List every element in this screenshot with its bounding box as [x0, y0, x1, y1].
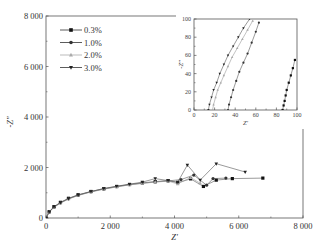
- inset-x-tick-label: 20: [212, 112, 218, 118]
- main-y-tick-label: 6 000: [24, 62, 43, 72]
- inset-x-axis-title: Z': [243, 119, 249, 126]
- inset-data-point: [294, 59, 296, 61]
- inset-data-point: [286, 89, 288, 91]
- inset-y-tick-label: 80: [185, 34, 191, 40]
- inset-data-point: [284, 100, 286, 102]
- inset-data-point: [283, 104, 285, 106]
- inset-y-tick-label: 60: [185, 52, 191, 58]
- main-data-point: [205, 184, 208, 187]
- main-y-tick-label: 4 000: [24, 112, 43, 122]
- legend-label: 1.0%: [84, 38, 102, 48]
- inset-data-point: [285, 94, 287, 96]
- legend-label: 3.0%: [84, 63, 102, 73]
- inset-x-tick-label: 80: [273, 112, 279, 118]
- inset-data-point: [235, 80, 237, 82]
- main-x-tick-label: 0: [44, 221, 48, 231]
- inset-data-point: [255, 31, 257, 33]
- legend-square-icon: [69, 28, 73, 32]
- inset-data-point: [292, 67, 294, 69]
- main-y-axis-title: -Z'': [5, 116, 15, 127]
- inset-data-point: [288, 82, 290, 84]
- main-data-point: [198, 179, 202, 182]
- main-y-tick-label: 0: [39, 213, 43, 223]
- inset-x-tick-label: 40: [232, 112, 238, 118]
- legend-label: 2.0%: [84, 50, 102, 60]
- inset-y-tick-label: 40: [185, 71, 191, 77]
- inset-y-axis-title: -Z'': [177, 60, 184, 69]
- inset-data-point: [242, 62, 244, 64]
- inset-y-tick-label: 100: [182, 16, 191, 22]
- main-data-point: [224, 177, 227, 180]
- main-data-point: [202, 185, 205, 188]
- main-x-tick-label: 8 000: [293, 221, 312, 231]
- main-y-tick-label: 2 000: [24, 163, 43, 173]
- main-x-axis-title: Z': [171, 232, 178, 242]
- inset-data-point: [238, 71, 240, 73]
- main-data-point: [261, 177, 264, 180]
- inset-data-point: [232, 89, 234, 91]
- main-x-tick-label: 2 000: [101, 221, 120, 231]
- inset-y-tick-label: 20: [185, 89, 191, 95]
- inset-data-point: [251, 42, 253, 44]
- nyquist-chart: 02 0004 0006 0008 00002 0004 0006 0008 0…: [0, 0, 326, 251]
- main-y-tick-label: 8 000: [24, 11, 43, 21]
- inset-x-tick-label: 60: [253, 112, 259, 118]
- main-data-point: [231, 177, 234, 180]
- inset-data-point: [290, 74, 292, 76]
- inset-x-tick-label: 100: [293, 112, 302, 118]
- inset-data-point: [230, 96, 232, 98]
- main-data-point: [211, 177, 214, 180]
- main-x-tick-label: 6 000: [229, 221, 248, 231]
- legend: 0.3%1.0%2.0%3.0%: [60, 25, 102, 73]
- inset-data-point: [228, 103, 230, 105]
- legend-label: 0.3%: [84, 25, 102, 35]
- legend-circle-icon: [69, 41, 73, 45]
- inset-plot: 020406080100020406080100Z'-Z'': [176, 14, 306, 129]
- inset-y-tick-label: 0: [188, 107, 191, 113]
- inset-data-point: [258, 22, 260, 24]
- main-x-tick-label: 4 000: [165, 221, 184, 231]
- main-data-point: [215, 179, 218, 182]
- main-data-point: [243, 171, 247, 174]
- main-series-line-3.0%: [46, 164, 245, 218]
- main-series-line-0.3%: [46, 178, 263, 218]
- inset-data-point: [246, 52, 248, 54]
- inset-x-tick-label: 0: [193, 112, 196, 118]
